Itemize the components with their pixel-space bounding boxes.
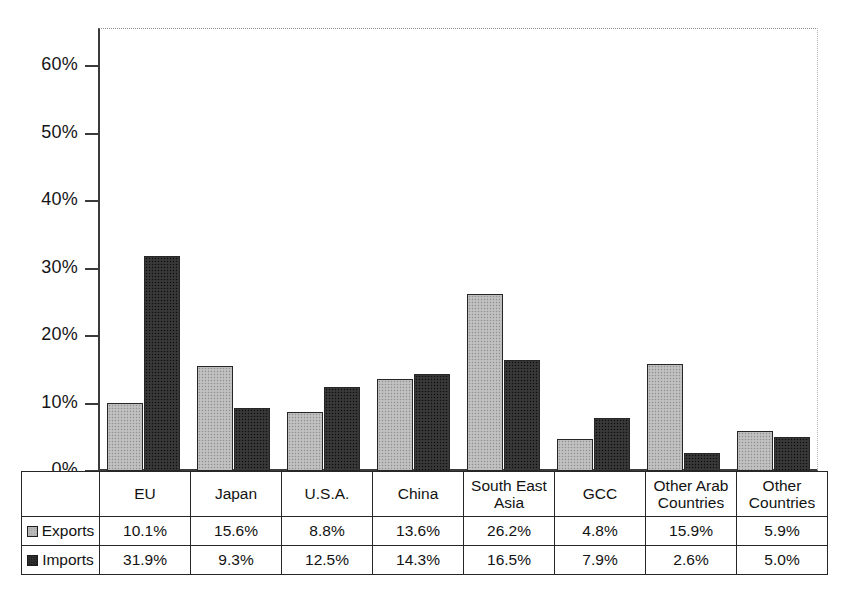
y-axis-tick-label: 60% (2, 54, 78, 75)
chart-figure: 0%10%20%30%40%50%60% EUJapanU.S.A.ChinaS… (0, 0, 845, 597)
bar-group (188, 28, 278, 471)
bar-imports (684, 453, 720, 471)
table-cell-value: 16.5% (464, 546, 555, 575)
table-cell-value: 15.9% (646, 517, 737, 546)
exports-swatch-icon (27, 526, 38, 537)
y-axis-tick-label: 40% (2, 189, 78, 210)
table-category-header: U.S.A. (282, 472, 373, 517)
table-cell-value: 31.9% (100, 546, 191, 575)
category-label-line: China (373, 485, 463, 502)
data-table: EUJapanU.S.A.ChinaSouth EastAsiaGCCOther… (21, 471, 828, 575)
bar-group (458, 28, 548, 471)
bar-group (548, 28, 638, 471)
bar-group (98, 28, 188, 471)
y-axis-tick-label: 30% (2, 257, 78, 278)
bar-group (638, 28, 728, 471)
table-cell-value: 2.6% (646, 546, 737, 575)
bar-imports (594, 418, 630, 471)
table-cell-value: 13.6% (373, 517, 464, 546)
data-table-wrapper: EUJapanU.S.A.ChinaSouth EastAsiaGCCOther… (21, 471, 818, 574)
y-axis-tick-label: 10% (2, 392, 78, 413)
y-axis-tick-label: 20% (2, 324, 78, 345)
table-row: Imports31.9%9.3%12.5%14.3%16.5%7.9%2.6%5… (22, 546, 828, 575)
category-label-line: Asia (464, 494, 554, 511)
bar-exports (197, 366, 233, 471)
legend-item-label: Imports (42, 551, 94, 568)
table-category-header: South EastAsia (464, 472, 555, 517)
y-axis-tick-mark (85, 65, 98, 67)
table-cell-value: 4.8% (555, 517, 646, 546)
bar-imports (144, 256, 180, 471)
y-axis-tick-mark (85, 335, 98, 337)
table-cell-value: 14.3% (373, 546, 464, 575)
legend-item-imports: Imports (22, 546, 100, 575)
category-label-line: GCC (555, 485, 645, 502)
category-label-line: U.S.A. (282, 485, 372, 502)
table-category-header: GCC (555, 472, 646, 517)
legend-item-label: Exports (42, 522, 95, 539)
category-label-line: Other Arab (646, 477, 736, 494)
imports-swatch-icon (27, 555, 38, 566)
table-header-row: EUJapanU.S.A.ChinaSouth EastAsiaGCCOther… (22, 472, 828, 517)
table-cell-value: 5.9% (737, 517, 828, 546)
table-category-header: Other ArabCountries (646, 472, 737, 517)
bar-exports (737, 431, 773, 471)
table-cell-value: 12.5% (282, 546, 373, 575)
bar-group (728, 28, 818, 471)
bar-exports (377, 379, 413, 471)
table-cell-value: 5.0% (737, 546, 828, 575)
category-label-line: Japan (191, 485, 281, 502)
table-row: Exports10.1%15.6%8.8%13.6%26.2%4.8%15.9%… (22, 517, 828, 546)
table-cell-value: 26.2% (464, 517, 555, 546)
category-label-line: EU (100, 485, 190, 502)
bar-group (368, 28, 458, 471)
bar-exports (107, 403, 143, 471)
table-category-header: Japan (191, 472, 282, 517)
table-cell-value: 9.3% (191, 546, 282, 575)
bar-exports (467, 294, 503, 471)
table-cell-value: 10.1% (100, 517, 191, 546)
y-axis-tick-mark (85, 200, 98, 202)
bar-group (278, 28, 368, 471)
table-category-header: EU (100, 472, 191, 517)
category-label-line: South East (464, 477, 554, 494)
table-corner-blank (22, 472, 100, 517)
bar-imports (324, 387, 360, 471)
category-label-line: Countries (737, 494, 827, 511)
bars-layer (98, 28, 818, 471)
bar-exports (647, 364, 683, 471)
category-label-line: Countries (646, 494, 736, 511)
bar-exports (557, 439, 593, 471)
legend-item-exports: Exports (22, 517, 100, 546)
bar-imports (504, 360, 540, 471)
bar-imports (414, 374, 450, 471)
bar-imports (234, 408, 270, 471)
y-axis-tick-mark (85, 403, 98, 405)
y-axis-tick-mark (85, 268, 98, 270)
bar-exports (287, 412, 323, 471)
table-category-header: OtherCountries (737, 472, 828, 517)
bar-imports (774, 437, 810, 471)
y-axis-tick-mark (85, 133, 98, 135)
table-cell-value: 15.6% (191, 517, 282, 546)
table-cell-value: 8.8% (282, 517, 373, 546)
table-cell-value: 7.9% (555, 546, 646, 575)
category-label-line: Other (737, 477, 827, 494)
y-axis-tick-label: 50% (2, 122, 78, 143)
table-category-header: China (373, 472, 464, 517)
